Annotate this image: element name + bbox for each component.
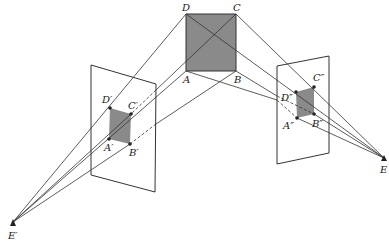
right-projected-square: [296, 87, 314, 118]
label-E: E: [379, 164, 388, 175]
perspective-diagram: D C A B D′ C′ A′ B′ D″ C″ A″ B″ E′ E: [0, 0, 389, 250]
label-A-double-prime: A″: [282, 120, 294, 131]
label-C-prime: C′: [128, 100, 139, 111]
label-C: C: [233, 2, 241, 13]
label-A: A: [182, 74, 190, 85]
label-B: B: [233, 74, 241, 85]
label-A-prime: A′: [103, 142, 114, 153]
label-B-prime: B′: [128, 147, 139, 158]
label-B-double-prime: B″: [311, 118, 323, 129]
label-E-prime: E′: [7, 230, 18, 241]
label-D: D: [181, 2, 190, 13]
label-D-double-prime: D″: [280, 92, 293, 103]
left-projected-square: [109, 108, 131, 144]
label-D-prime: D′: [101, 94, 113, 105]
label-C-double-prime: C″: [313, 72, 325, 83]
object-square: [186, 14, 236, 71]
right-rays: [186, 14, 384, 158]
